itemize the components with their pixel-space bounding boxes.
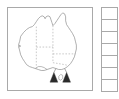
arrow-marker-right-icon	[63, 72, 71, 82]
legend-swatch	[102, 20, 117, 31]
legend-swatch	[102, 32, 117, 43]
legend-cell[interactable]	[101, 7, 118, 19]
australia-map-svg	[8, 8, 92, 90]
arrow-leader-right-path	[65, 69, 67, 73]
arrow-marker-left-icon	[50, 72, 58, 82]
legend-swatch	[102, 56, 117, 67]
legend-cell[interactable]	[101, 79, 118, 92]
legend-swatch	[102, 80, 117, 91]
map-panel	[7, 7, 93, 91]
legend-cell[interactable]	[101, 31, 118, 43]
arrow-leader-left-path	[54, 69, 56, 73]
legend-cell[interactable]	[101, 43, 118, 55]
mainland-coastline-path	[19, 13, 77, 71]
legend-cell[interactable]	[101, 67, 118, 79]
legend-cell[interactable]	[101, 55, 118, 67]
legend-swatch	[102, 44, 117, 55]
figure-root	[0, 0, 119, 99]
legend-swatch	[102, 68, 117, 79]
legend-column	[101, 7, 118, 92]
tasmania-island-path	[59, 74, 63, 80]
legend-cell[interactable]	[101, 19, 118, 31]
legend-swatch	[102, 8, 117, 19]
